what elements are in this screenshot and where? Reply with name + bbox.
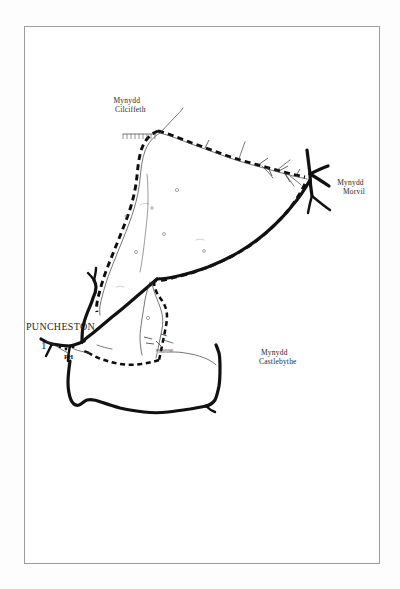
field-marks (125, 188, 206, 319)
minor-roads (46, 108, 307, 365)
parish-boundary-dashed (82, 131, 305, 365)
escarpment-hachure-line (123, 134, 155, 139)
map-drawing: .road-heavy { fill:none; stroke:#111111;… (0, 0, 400, 589)
main-roads (41, 150, 330, 413)
map-figure-page: .road-heavy { fill:none; stroke:#111111;… (0, 0, 400, 589)
